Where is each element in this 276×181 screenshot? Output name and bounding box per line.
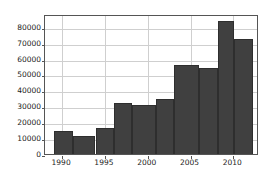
y-tick-mark <box>42 76 45 77</box>
histogram-bar <box>73 136 95 154</box>
y-tick-label: 70000 <box>17 40 41 48</box>
y-tick-mark <box>42 45 45 46</box>
x-tick-label: 2010 <box>223 159 242 167</box>
y-tick-mark <box>42 140 45 141</box>
y-tick-mark <box>42 124 45 125</box>
y-tick-label: 80000 <box>17 24 41 32</box>
histogram-bar <box>199 68 218 154</box>
histogram-figure: 0100002000030000400005000060000700008000… <box>0 0 276 181</box>
histogram-bar <box>218 21 234 154</box>
y-tick-label: 0 <box>36 151 41 159</box>
plot-area <box>44 15 258 155</box>
x-tick-label: 1990 <box>52 159 71 167</box>
bar-series <box>45 16 257 154</box>
y-tick-mark <box>42 92 45 93</box>
histogram-bar <box>114 103 132 154</box>
histogram-bar <box>96 128 115 154</box>
y-tick-label: 60000 <box>17 56 41 64</box>
y-axis-tick-labels: 0100002000030000400005000060000700008000… <box>0 15 41 155</box>
y-tick-mark <box>42 108 45 109</box>
y-tick-label: 40000 <box>17 87 41 95</box>
histogram-bar <box>132 105 156 154</box>
x-tick-label: 2005 <box>180 159 199 167</box>
y-tick-label: 30000 <box>17 103 41 111</box>
x-tick-label: 1995 <box>94 159 113 167</box>
y-tick-label: 10000 <box>17 135 41 143</box>
histogram-bar <box>156 99 174 154</box>
y-tick-mark <box>42 61 45 62</box>
histogram-bar <box>174 65 199 154</box>
y-tick-label: 20000 <box>17 119 41 127</box>
histogram-bar <box>54 131 74 154</box>
x-axis-tick-labels: 19901995200020052010 <box>44 156 258 170</box>
y-tick-mark <box>42 29 45 30</box>
x-tick-label: 2000 <box>137 159 156 167</box>
y-tick-label: 50000 <box>17 71 41 79</box>
histogram-bar <box>234 39 253 154</box>
